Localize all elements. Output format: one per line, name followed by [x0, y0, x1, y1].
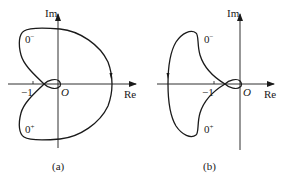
panel-b-omega-0-plus-label: 0+ — [204, 124, 213, 135]
panel-a-omega-0-plus-label: 0+ — [25, 124, 34, 135]
panel-a-caption: (a) — [52, 161, 64, 172]
panel-b-omega-0-minus-label: 0− — [204, 34, 213, 45]
panel-b-curve-lower — [168, 84, 225, 137]
panel-a-origin-label: O — [61, 87, 69, 98]
panel-b-curve-upper — [168, 31, 225, 84]
panel-b-0-plus-sup: + — [210, 123, 214, 131]
panel-b-direction-arrow — [167, 73, 170, 79]
panel-a-0-plus-sup: + — [31, 123, 35, 131]
panel-b-im-label: Im — [227, 8, 239, 19]
panel-b-caption: (b) — [203, 161, 216, 172]
panel-a-re-label: Re — [124, 89, 136, 100]
panel-a-0-minus-sup: − — [31, 33, 35, 41]
panel-b-re-label: Re — [264, 89, 276, 100]
panel-b-origin-label: O — [243, 87, 251, 98]
panel-a-tick-label: −1 — [21, 87, 33, 98]
panel-b-tick-label: −1 — [202, 87, 214, 98]
panel-b — [157, 14, 274, 150]
panel-a-im-label: Im — [45, 8, 57, 19]
panel-b-0-minus-sup: − — [210, 33, 214, 41]
panel-a-omega-0-minus-label: 0− — [25, 34, 34, 45]
